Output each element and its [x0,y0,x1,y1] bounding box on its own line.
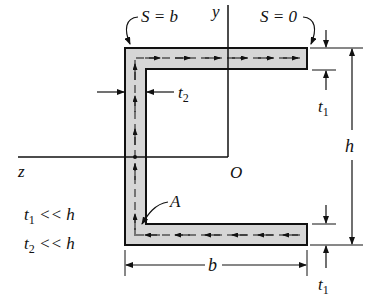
s-0-label: S = 0 [260,7,297,26]
point-a-label: A [169,192,181,211]
t1-bottom-label: t1 [318,275,329,297]
s-0-leader [303,17,315,44]
s-b-label: S = b [141,7,178,26]
h-label: h [345,136,354,156]
b-label: b [208,255,217,275]
y-axis-label: y [210,2,220,21]
channel-section [125,48,307,245]
origin-label: O [230,163,242,182]
condition-t1: t1 << h [24,205,75,227]
t2-label: t2 [178,83,189,105]
s-b-leader [126,17,138,44]
t1-top-label: t1 [318,97,329,119]
z-axis-label: z [17,162,25,181]
channel-section-diagram: S = b S = 0 y z O A t2 t1 t1 h b t1 << h… [0,0,367,298]
condition-t2: t2 << h [24,234,75,256]
